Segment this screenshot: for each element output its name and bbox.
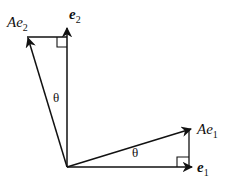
label-Ae1: Ae1 bbox=[196, 121, 218, 140]
label-e2: e2 bbox=[69, 6, 81, 25]
theta-upper-label: θ bbox=[53, 90, 59, 105]
vector-Ae1 bbox=[67, 129, 191, 167]
vector-Ae2 bbox=[28, 38, 67, 167]
theta-lower-label: θ bbox=[132, 145, 138, 160]
diagram-svg: Ae2 e2 Ae1 e1 θ θ bbox=[0, 0, 227, 180]
right-angle-marker-top bbox=[57, 37, 67, 47]
label-Ae2: Ae2 bbox=[6, 14, 28, 33]
label-e1: e1 bbox=[197, 159, 209, 178]
rotation-diagram: Ae2 e2 Ae1 e1 θ θ bbox=[0, 0, 227, 180]
right-angle-marker-right bbox=[177, 157, 189, 167]
